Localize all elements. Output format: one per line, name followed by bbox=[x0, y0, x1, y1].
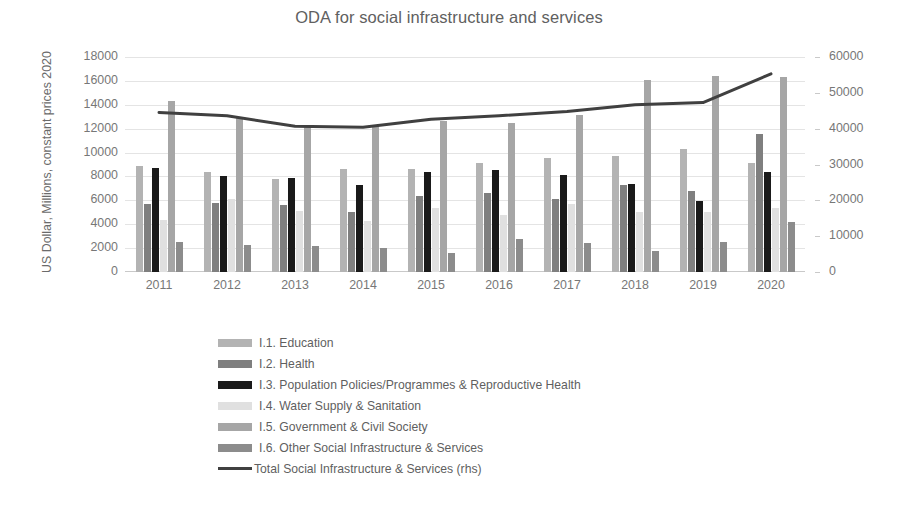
bar-group bbox=[125, 57, 193, 272]
y-tick-label-left: 18000 bbox=[58, 50, 118, 62]
legend-label: I.5. Government & Civil Society bbox=[259, 420, 428, 434]
legend-item[interactable]: I.5. Government & Civil Society bbox=[218, 417, 581, 436]
bar-group bbox=[261, 57, 329, 272]
legend-color-swatch-icon bbox=[218, 423, 252, 431]
y-tick-label-right: 60000 bbox=[829, 50, 863, 62]
bar-2 bbox=[144, 204, 151, 272]
y-tick-mark-right bbox=[815, 200, 820, 201]
y-tick-label-left: 8000 bbox=[58, 169, 118, 181]
bar-5 bbox=[508, 123, 515, 272]
y-axis-title: US Dollar, Millions, constant prices 202… bbox=[40, 37, 54, 287]
bar-group bbox=[533, 57, 601, 272]
bar-2 bbox=[348, 212, 355, 272]
bar-group bbox=[465, 57, 533, 272]
bar-3 bbox=[560, 175, 567, 272]
y-tick-mark-right bbox=[815, 236, 820, 237]
legend-item[interactable]: I.1. Education bbox=[218, 333, 581, 352]
chart-container: ODA for social infrastructure and servic… bbox=[0, 0, 898, 506]
y-tick-label-left: 0 bbox=[58, 265, 118, 277]
x-tick-label: 2017 bbox=[533, 278, 601, 292]
bar-2 bbox=[280, 205, 287, 272]
bar-1 bbox=[340, 169, 347, 272]
bar-4 bbox=[296, 211, 303, 273]
bar-6 bbox=[380, 248, 387, 272]
bar-group bbox=[397, 57, 465, 272]
y-tick-label-left: 12000 bbox=[58, 122, 118, 134]
bar-2 bbox=[756, 134, 763, 272]
y-tick-label-right: 10000 bbox=[829, 229, 863, 241]
bar-3 bbox=[220, 176, 227, 272]
y-tick-mark-right bbox=[815, 165, 820, 166]
bar-6 bbox=[652, 251, 659, 272]
bar-5 bbox=[576, 115, 583, 272]
y-tick-label-right: 50000 bbox=[829, 86, 863, 98]
bar-4 bbox=[772, 208, 779, 272]
bar-3 bbox=[492, 170, 499, 272]
bar-3 bbox=[424, 172, 431, 272]
bar-1 bbox=[544, 158, 551, 272]
x-tick-label: 2012 bbox=[193, 278, 261, 292]
legend-label: I.4. Water Supply & Sanitation bbox=[259, 399, 421, 413]
legend-color-swatch-icon bbox=[218, 360, 252, 368]
y-tick-label-right: 0 bbox=[829, 265, 836, 277]
bar-3 bbox=[764, 172, 771, 272]
bar-6 bbox=[788, 222, 795, 272]
y-tick-label-left: 6000 bbox=[58, 193, 118, 205]
bar-3 bbox=[696, 201, 703, 272]
bar-5 bbox=[780, 77, 787, 272]
y-tick-label-left: 4000 bbox=[58, 217, 118, 229]
bar-3 bbox=[356, 185, 363, 272]
legend-item[interactable]: I.6. Other Social Infrastructure & Servi… bbox=[218, 438, 581, 457]
bar-group bbox=[669, 57, 737, 272]
bar-3 bbox=[288, 178, 295, 272]
bar-5 bbox=[440, 121, 447, 272]
bar-6 bbox=[244, 245, 251, 272]
bar-6 bbox=[584, 243, 591, 272]
x-tick-label: 2019 bbox=[669, 278, 737, 292]
bar-3 bbox=[628, 184, 635, 272]
y-tick-label-right: 20000 bbox=[829, 193, 863, 205]
legend-line-swatch-icon bbox=[218, 467, 252, 470]
bar-2 bbox=[552, 199, 559, 272]
y-tick-mark-right bbox=[815, 93, 820, 94]
bar-1 bbox=[748, 163, 755, 272]
x-tick-label: 2018 bbox=[601, 278, 669, 292]
legend-label: I.2. Health bbox=[259, 357, 315, 371]
legend-item[interactable]: I.4. Water Supply & Sanitation bbox=[218, 396, 581, 415]
bar-4 bbox=[228, 199, 235, 272]
x-tick-label: 2011 bbox=[125, 278, 193, 292]
bar-5 bbox=[644, 80, 651, 272]
bar-6 bbox=[720, 242, 727, 272]
bar-5 bbox=[372, 126, 379, 272]
y-tick-label-left: 2000 bbox=[58, 241, 118, 253]
y-tick-label-left: 16000 bbox=[58, 74, 118, 86]
legend-color-swatch-icon bbox=[218, 339, 252, 347]
legend-item[interactable]: I.2. Health bbox=[218, 354, 581, 373]
bar-4 bbox=[432, 208, 439, 273]
y-tick-label-left: 14000 bbox=[58, 98, 118, 110]
bar-1 bbox=[204, 172, 211, 272]
bar-5 bbox=[236, 117, 243, 272]
bar-group bbox=[329, 57, 397, 272]
legend-item[interactable]: I.3. Population Policies/Programmes & Re… bbox=[218, 375, 581, 394]
bar-5 bbox=[168, 101, 175, 272]
y-axis-right-ticks: 0100002000030000400005000060000 bbox=[815, 57, 885, 272]
chart-legend: I.1. EducationI.2. HealthI.3. Population… bbox=[218, 333, 581, 478]
bar-6 bbox=[176, 242, 183, 272]
legend-item[interactable]: Total Social Infrastructure & Services (… bbox=[218, 459, 581, 478]
bar-2 bbox=[484, 193, 491, 272]
bar-4 bbox=[160, 220, 167, 272]
legend-label: Total Social Infrastructure & Services (… bbox=[254, 462, 482, 476]
legend-label: I.1. Education bbox=[259, 336, 334, 350]
chart-title: ODA for social infrastructure and servic… bbox=[0, 8, 898, 27]
bar-group bbox=[737, 57, 805, 272]
bar-5 bbox=[712, 76, 719, 272]
bar-4 bbox=[568, 204, 575, 272]
x-tick-label: 2013 bbox=[261, 278, 329, 292]
plot-area bbox=[125, 57, 805, 272]
x-tick-label: 2015 bbox=[397, 278, 465, 292]
y-axis-left-ticks: 0200040006000800010000120001400016000180… bbox=[58, 57, 118, 272]
bar-2 bbox=[688, 191, 695, 272]
x-tick-label: 2014 bbox=[329, 278, 397, 292]
bar-group bbox=[601, 57, 669, 272]
